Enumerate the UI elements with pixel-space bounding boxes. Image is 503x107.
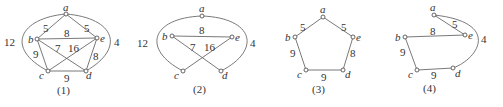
vertex-c	[415, 68, 419, 72]
vertex-label-c: c	[297, 68, 302, 80]
vertex-label-d: d	[455, 67, 461, 79]
weight-e-d: 8	[93, 50, 99, 62]
weight-b-e: 8	[199, 24, 205, 36]
weight-a-b: 5	[300, 21, 306, 33]
figure-2: 8 7 16 12 4 a b c d e (2)	[137, 2, 256, 96]
edge-b-c	[295, 37, 306, 70]
weight-b-c: 9	[400, 46, 406, 58]
vertex-label-e: e	[235, 31, 240, 43]
vertex-label-e: e	[356, 31, 361, 43]
vertex-e	[95, 36, 99, 40]
figure-caption: (4)	[423, 82, 436, 95]
vertex-label-a: a	[63, 1, 69, 13]
figure-caption: (3)	[312, 83, 325, 96]
figure-1: 5 5 8 7 16 9 8 9 12 4 a b c d e (1)	[4, 1, 120, 97]
vertex-label-b: b	[162, 30, 168, 42]
weight-b-e: 8	[430, 25, 436, 37]
weight-b-e: 8	[64, 27, 70, 39]
vertex-c	[304, 68, 308, 72]
weight-a-b: 5	[43, 22, 49, 34]
vertex-label-d: d	[222, 69, 228, 81]
vertex-label-b: b	[28, 33, 34, 45]
vertex-label-b: b	[285, 31, 291, 43]
vertex-a	[321, 15, 325, 19]
vertex-label-a: a	[430, 1, 436, 13]
graph-figures-canvas: 5 5 8 7 16 9 8 9 12 4 a b c d e (1) 8 7 …	[0, 0, 503, 107]
weight-c-d: 9	[64, 72, 70, 84]
weight-c-d: 9	[431, 69, 437, 81]
vertex-b	[170, 34, 174, 38]
edge-b-e	[172, 36, 232, 37]
weight-c-d: 9	[321, 71, 327, 83]
figure-4: 5 8 9 9 4 a b c d e (4)	[395, 1, 487, 95]
weight-a-d: 4	[114, 36, 120, 48]
vertex-label-e: e	[468, 29, 473, 41]
figure-3: 5 5 9 8 9 a b c d e (3)	[285, 3, 361, 96]
vertex-a	[200, 14, 204, 18]
edge-b-c	[405, 37, 417, 70]
vertex-label-c: c	[408, 68, 413, 80]
figure-caption: (2)	[193, 83, 206, 96]
weight-b-c: 9	[33, 48, 39, 60]
weight-b-c: 9	[290, 47, 296, 59]
vertex-a	[432, 13, 436, 17]
weight-a-c: 12	[137, 37, 148, 49]
vertex-label-d: d	[345, 68, 351, 80]
weight-a-e: 5	[341, 21, 347, 33]
vertex-label-a: a	[320, 3, 326, 15]
weight-b-d: 7	[190, 41, 196, 53]
weight-a-e: 5	[84, 22, 90, 34]
weight-e-d: 8	[350, 47, 356, 59]
vertex-c	[46, 69, 50, 73]
vertex-e	[351, 35, 355, 39]
edge-a-e	[323, 17, 353, 37]
weight-c-e: 16	[68, 42, 80, 54]
vertex-label-b: b	[395, 31, 401, 43]
weight-a-d: 4	[481, 33, 487, 45]
vertex-label-c: c	[174, 69, 179, 81]
edge-a-b	[37, 14, 66, 39]
vertex-b	[293, 35, 297, 39]
figure-caption: (1)	[57, 84, 70, 97]
vertex-label-e: e	[100, 32, 105, 44]
edge-a-e	[66, 14, 97, 38]
weight-c-e: 16	[204, 41, 216, 53]
vertex-c	[181, 69, 185, 73]
weight-a-e: 5	[452, 18, 458, 30]
vertex-label-c: c	[39, 69, 44, 81]
vertex-e	[230, 35, 234, 39]
vertex-e	[463, 33, 467, 37]
weight-b-d: 7	[55, 42, 61, 54]
weight-a-c: 12	[4, 36, 15, 48]
vertex-label-a: a	[199, 2, 205, 14]
vertex-label-d: d	[86, 69, 92, 81]
vertex-b	[403, 35, 407, 39]
edge-b-c	[37, 39, 48, 71]
weight-a-d: 4	[250, 37, 256, 49]
vertex-b	[35, 37, 39, 41]
edge-a-e	[434, 15, 465, 35]
